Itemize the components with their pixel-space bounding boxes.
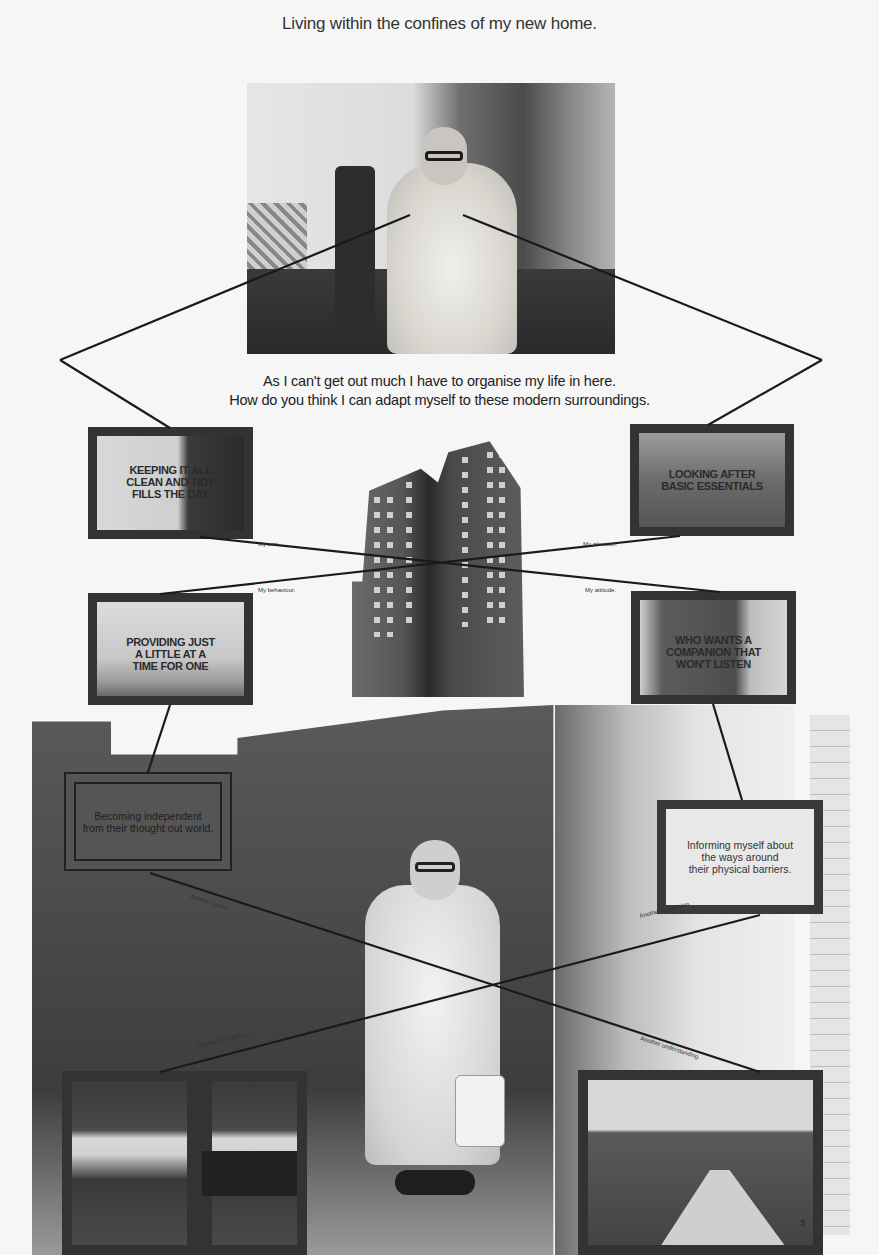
subtitle: As I can't get out much I have to organi… [0, 372, 879, 410]
woman-figure [387, 163, 517, 354]
subtitle-line-1: As I can't get out much I have to organi… [0, 372, 879, 391]
text-box-informing: Informing myself about the ways around t… [657, 800, 823, 914]
tv-caption: LOOKING AFTER BASIC ESSENTIALS [639, 468, 785, 492]
window-column [406, 482, 412, 632]
tv-panel-providing: PROVIDING JUST A LITTLE AT A TIME FOR ON… [88, 593, 253, 705]
walkway-path [658, 1170, 788, 1250]
tv-caption: PROVIDING JUST A LITTLE AT A TIME FOR ON… [97, 636, 244, 672]
tv-caption: KEEPING IT ALL CLEAN AND TIDY FILLS THE … [97, 464, 244, 500]
tv-panel-essentials: LOOKING AFTER BASIC ESSENTIALS [630, 424, 794, 536]
balcony-photo [62, 1071, 307, 1255]
label-my-behaviour: My behaviour. [258, 587, 296, 593]
window-column [499, 452, 505, 627]
handbag [455, 1075, 505, 1147]
window-column [387, 497, 393, 637]
walking-woman-figure [355, 840, 505, 1200]
shoes [395, 1170, 475, 1195]
label-my-attitude: My attitude. [585, 587, 616, 593]
text-box-independent: Becoming independent from their thought … [64, 772, 232, 871]
window-column [487, 452, 493, 627]
page-title: Living within the confines of my new hom… [0, 14, 879, 34]
subtitle-line-2: How do you think I can adapt myself to t… [0, 391, 879, 410]
glasses-icon [415, 862, 455, 872]
shrubs [202, 1151, 297, 1196]
text-box-inner: Becoming independent from their thought … [74, 782, 222, 861]
window-column [462, 457, 468, 627]
label-my-attention: My attention. [583, 541, 618, 547]
chair [335, 166, 375, 341]
seated-woman-photo [247, 83, 615, 354]
window-column [374, 497, 380, 637]
tv-caption: WHO WANTS A COMPANION THAT WON'T LISTEN [640, 634, 787, 670]
tv-panel-companion: WHO WANTS A COMPANION THAT WON'T LISTEN [631, 591, 796, 704]
tv-panel-cleaning: KEEPING IT ALL CLEAN AND TIDY FILLS THE … [88, 427, 253, 539]
glasses-icon [425, 151, 463, 161]
label-my-cats: My cats. [258, 541, 281, 547]
walkway-photo [578, 1070, 823, 1255]
tower-block-photo [352, 422, 524, 697]
